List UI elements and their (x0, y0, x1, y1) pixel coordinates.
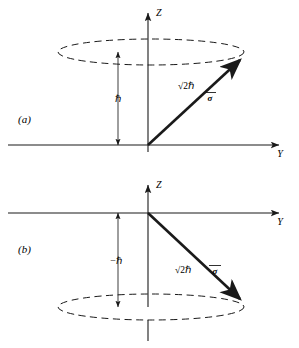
panel-a-z-axis-label: Z (156, 7, 162, 18)
panel-a-magnitude-label: √2ℏ (178, 81, 194, 91)
panel-b-magnitude-label: √2ℏ (175, 265, 191, 275)
panel-b-vector-label: σ (213, 266, 219, 276)
panel-a-precession-ellipse (58, 39, 244, 65)
panel-b-precession-ellipse (58, 294, 244, 320)
panel-a-tag: (a) (18, 113, 31, 126)
panel-b-z-axis-label: Z (156, 179, 162, 190)
panel-b-projection-label: −ℏ (110, 255, 122, 266)
panel-b-y-axis-label: Y (277, 216, 284, 227)
figure-canvas: Z Y (a) ℏ √2ℏ σ Z Y (b) −ℏ √2ℏ σ (0, 0, 299, 348)
panel-a-projection-label: ℏ (115, 93, 121, 104)
spin-vector-figure: Z Y (a) ℏ √2ℏ σ Z Y (b) −ℏ √2ℏ σ (0, 0, 299, 348)
panel-a-vector-label: σ (208, 93, 214, 103)
panel-b-spin-vector (148, 213, 240, 299)
panel-b: Z Y (b) −ℏ √2ℏ σ (8, 179, 284, 341)
panel-a-y-axis-label: Y (277, 148, 284, 159)
panel-a: Z Y (a) ℏ √2ℏ σ (8, 7, 284, 159)
panel-b-tag: (b) (18, 243, 31, 256)
panel-a-spin-vector (148, 60, 240, 145)
